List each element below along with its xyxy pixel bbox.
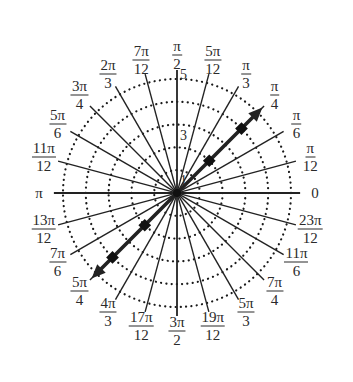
angle-label-numerator: π	[270, 79, 280, 96]
angle-label-numerator: 11π	[284, 245, 308, 262]
angle-label-numerator: 17π	[129, 310, 154, 327]
angle-label-denominator: 4	[271, 96, 279, 112]
angle-label-345deg: 23π12	[298, 212, 323, 245]
angle-label-135deg: 3π4	[71, 79, 88, 112]
angle-label-75deg: 5π12	[204, 43, 221, 76]
angle-label-numerator: 19π	[200, 310, 225, 327]
angle-label-denominator: 12	[134, 60, 149, 76]
angle-label-120deg: 2π3	[99, 57, 116, 90]
angle-label-denominator: 4	[76, 96, 84, 112]
angle-label-240deg: 4π3	[99, 296, 116, 329]
angle-label-45deg: π4	[270, 79, 280, 112]
angle-label-225deg: 5π4	[71, 274, 88, 307]
angle-label-15deg: π12	[303, 141, 318, 174]
angle-label-denominator: 12	[303, 158, 318, 174]
angle-label-numerator: π	[241, 57, 251, 74]
angle-label-315deg: 7π4	[266, 274, 283, 307]
radial-label-3: 3	[180, 128, 187, 144]
angle-label-denominator: 4	[271, 291, 279, 307]
angle-label-denominator: 12	[134, 327, 149, 343]
angle-label-numerator: 7π	[49, 245, 66, 262]
angle-label-denominator: 6	[54, 125, 62, 141]
angle-label-0deg: 0	[311, 186, 319, 201]
angle-label-text: π	[35, 185, 43, 201]
angle-label-numerator: 7π	[266, 274, 283, 291]
angle-label-255deg: 17π12	[129, 310, 154, 343]
angle-label-denominator: 3	[104, 313, 112, 329]
angle-label-30deg: π6	[292, 108, 302, 141]
angle-label-numerator: 23π	[298, 212, 323, 229]
origin-point	[173, 189, 181, 197]
angle-label-denominator: 3	[242, 313, 250, 329]
angle-label-denominator: 3	[242, 74, 250, 90]
angle-label-195deg: 13π12	[31, 212, 56, 245]
angle-label-numerator: 5π	[49, 108, 66, 125]
angle-label-285deg: 19π12	[200, 310, 225, 343]
angle-label-denominator: 6	[54, 262, 62, 278]
angle-label-text: 0	[311, 185, 319, 201]
angle-label-numerator: 13π	[31, 212, 56, 229]
angle-label-numerator: 3π	[168, 314, 185, 331]
angle-label-numerator: 5π	[237, 296, 254, 313]
angle-label-300deg: 5π3	[237, 296, 254, 329]
angle-label-denominator: 12	[36, 229, 51, 245]
angle-label-180deg: π	[35, 186, 43, 201]
angle-label-denominator: 12	[205, 60, 220, 76]
radial-label-5: 5	[180, 67, 187, 83]
angle-label-numerator: π	[292, 108, 302, 125]
angle-label-denominator: 12	[205, 327, 220, 343]
angle-label-60deg: π3	[241, 57, 251, 90]
angle-label-165deg: 11π12	[32, 141, 56, 174]
angle-label-denominator: 6	[293, 125, 301, 141]
angle-label-numerator: π	[305, 141, 315, 158]
angle-label-numerator: 11π	[32, 141, 56, 158]
angle-label-330deg: 11π6	[284, 245, 308, 278]
angle-label-denominator: 2	[173, 331, 181, 347]
angle-label-denominator: 4	[76, 291, 84, 307]
angle-label-denominator: 6	[293, 262, 301, 278]
angle-label-denominator: 12	[36, 158, 51, 174]
angle-label-numerator: π	[172, 39, 182, 56]
angle-label-numerator: 5π	[204, 43, 221, 60]
angle-label-270deg: 3π2	[168, 314, 185, 347]
angle-label-210deg: 7π6	[49, 245, 66, 278]
angle-label-denominator: 3	[104, 74, 112, 90]
angle-label-105deg: 7π12	[133, 43, 150, 76]
angle-label-numerator: 3π	[71, 79, 88, 96]
angle-label-denominator: 12	[303, 229, 318, 245]
angle-label-numerator: 7π	[133, 43, 150, 60]
angle-label-150deg: 5π6	[49, 108, 66, 141]
angle-label-numerator: 2π	[99, 57, 116, 74]
angle-label-numerator: 5π	[71, 274, 88, 291]
radial-label-1: 1	[180, 173, 187, 189]
angle-label-numerator: 4π	[99, 296, 116, 313]
